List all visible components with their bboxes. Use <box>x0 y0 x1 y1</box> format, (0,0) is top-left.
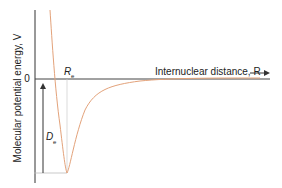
zero-label: 0 <box>24 73 30 84</box>
equilibrium-subscript: e <box>71 73 75 79</box>
y-axis-label: Molecular potential energy, V <box>12 33 23 162</box>
arrow-right-icon <box>264 70 270 76</box>
arrow-up-icon <box>40 83 46 89</box>
potential-curve <box>50 10 260 173</box>
potential-energy-diagram: Molecular potential energy, V 0 Internuc… <box>0 0 282 188</box>
dissociation-subscript: e <box>53 139 57 145</box>
x-axis-label: Internuclear distance, R <box>155 66 261 77</box>
